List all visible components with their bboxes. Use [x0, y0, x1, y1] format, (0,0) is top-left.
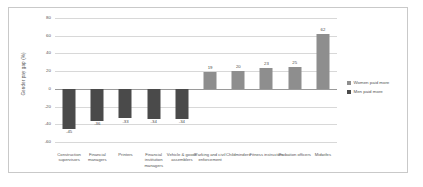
bar-column: -34Vehicle & goods assemblers — [168, 18, 196, 142]
legend-item[interactable]: Men paid more — [347, 89, 417, 94]
bar-value-label: 25 — [292, 61, 297, 65]
bar-value-label: -34 — [179, 120, 185, 124]
bar — [260, 68, 273, 88]
y-axis-tick-label: 0 — [49, 87, 51, 91]
bar — [175, 89, 188, 119]
bar-value-label: -34 — [151, 120, 157, 124]
bar-column: 25Probation officers — [281, 18, 309, 142]
y-axis-tick-label: 40 — [46, 51, 51, 55]
y-axis-title: Gender pay gap (%) — [21, 52, 26, 95]
bar-column: 62Midwifes — [309, 18, 337, 142]
y-axis-tick-label: -20 — [45, 104, 51, 108]
legend-label: Men paid more — [354, 89, 383, 94]
y-axis-tick-label: -40 — [45, 122, 51, 126]
plot-region: 806040200-20-40-60 -45Construction super… — [55, 18, 337, 142]
legend-swatch-icon — [347, 81, 351, 85]
x-axis-category-label: Midwifes — [306, 152, 340, 157]
bar — [232, 71, 245, 89]
bar-value-label: -45 — [66, 130, 72, 134]
bar-column: -33Printers — [111, 18, 139, 142]
y-axis-tick-label: -60 — [45, 140, 51, 144]
legend-swatch-icon — [347, 90, 351, 94]
y-axis-tick-label: 60 — [46, 34, 51, 38]
bar-value-label: -36 — [94, 122, 100, 126]
bar — [316, 34, 329, 89]
y-axis-tick-label: 80 — [46, 16, 51, 20]
gridline — [55, 142, 337, 143]
bar-column: -45Construction supervisors — [55, 18, 83, 142]
bar-value-label: 20 — [236, 65, 241, 69]
bar-column: 23Fitness instructors — [252, 18, 280, 142]
chart-area: Gender pay gap (%) 806040200-20-40-60 -4… — [9, 8, 407, 172]
bar-value-label: 19 — [208, 66, 213, 70]
bar-column: -34Financial institution managers — [140, 18, 168, 142]
bar-column: -36Financial managers — [83, 18, 111, 142]
legend-item[interactable]: Women paid more — [347, 80, 417, 85]
bar — [91, 89, 104, 121]
bar-column: 20Childminders — [224, 18, 252, 142]
bar — [63, 89, 76, 129]
bar-value-label: -33 — [122, 120, 128, 124]
bar — [204, 72, 217, 89]
bar — [288, 67, 301, 89]
y-axis-tick-label: 20 — [46, 69, 51, 73]
legend-label: Women paid more — [354, 80, 390, 85]
bar — [147, 89, 160, 119]
bar-value-label: 23 — [264, 62, 269, 66]
bar-column: 19Parking and civil enforcement — [196, 18, 224, 142]
chart-legend: Women paid moreMen paid more — [347, 80, 417, 98]
bar-value-label: 62 — [321, 28, 326, 32]
bar-series: -45Construction supervisors-36Financial … — [55, 18, 337, 142]
chart-frame: Gender pay gap (%) 806040200-20-40-60 -4… — [8, 7, 408, 173]
bar — [119, 89, 132, 118]
